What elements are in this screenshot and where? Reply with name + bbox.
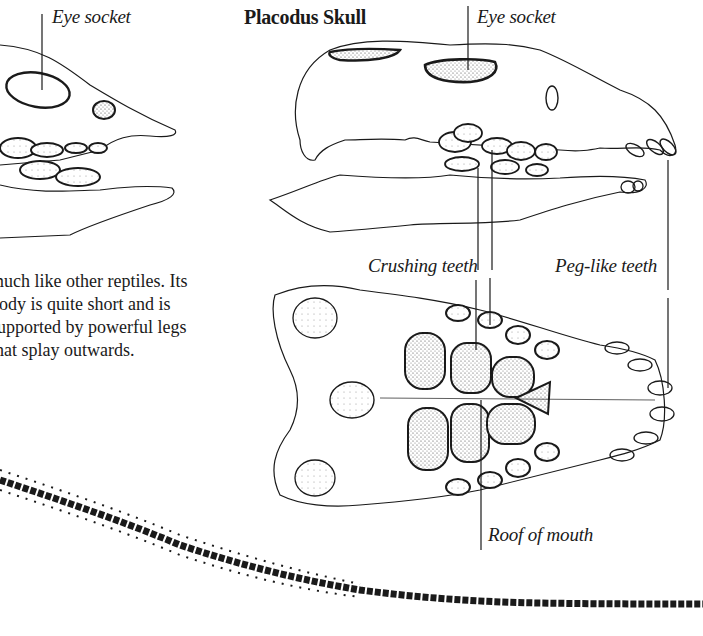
tail-illustration <box>0 470 703 604</box>
left-skull-illustration <box>0 45 176 238</box>
body-line-3: supported by powerful legs <box>0 316 187 339</box>
placodus-side-skull-illustration <box>270 41 679 232</box>
peg-like-teeth-label: Peg-like teeth <box>555 255 657 277</box>
right-eye-socket-label: Eye socket <box>477 6 556 28</box>
body-paragraph: much like other reptiles. Its body is qu… <box>0 270 187 362</box>
crushing-teeth-label: Crushing teeth <box>368 255 478 277</box>
roof-of-mouth-label: Roof of mouth <box>488 524 593 546</box>
left-eye-socket-label: Eye socket <box>52 6 131 28</box>
page-title: Placodus Skull <box>244 6 366 29</box>
body-line-1: much like other reptiles. Its <box>0 270 187 293</box>
body-line-2: body is quite short and is <box>0 293 187 316</box>
placodus-underside-skull-illustration <box>273 286 674 506</box>
body-line-4: that splay outwards. <box>0 339 187 362</box>
